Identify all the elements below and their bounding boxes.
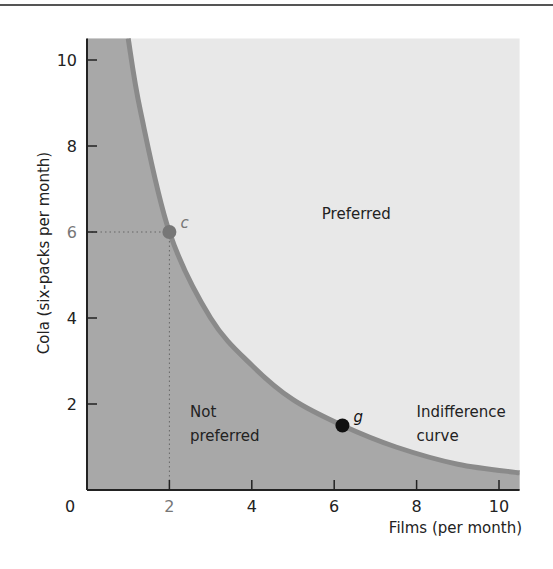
- svg-text:2: 2: [67, 395, 77, 414]
- svg-text:8: 8: [412, 497, 422, 516]
- svg-text:6: 6: [67, 223, 77, 242]
- svg-text:6: 6: [329, 497, 339, 516]
- svg-text:Indifference: Indifference: [417, 403, 506, 421]
- svg-text:8: 8: [67, 137, 77, 156]
- svg-text:4: 4: [67, 309, 77, 328]
- indifference-chart: 0246810 246810 cg PreferredNotpreferredI…: [0, 0, 553, 569]
- svg-text:4: 4: [247, 497, 257, 516]
- y-axis-label: Cola (six-packs per month): [35, 152, 53, 354]
- svg-text:g: g: [353, 408, 363, 426]
- svg-text:10: 10: [57, 51, 77, 70]
- svg-text:2: 2: [164, 497, 174, 516]
- svg-text:curve: curve: [417, 427, 459, 445]
- svg-text:Preferred: Preferred: [322, 205, 391, 223]
- svg-text:c: c: [180, 214, 189, 232]
- x-axis-label: Films (per month): [389, 519, 522, 537]
- svg-text:preferred: preferred: [190, 427, 260, 445]
- svg-text:10: 10: [489, 497, 509, 516]
- svg-text:Not: Not: [190, 403, 216, 421]
- svg-text:0: 0: [65, 497, 75, 516]
